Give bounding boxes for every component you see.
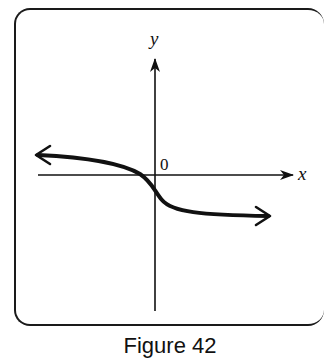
origin-label: 0 xyxy=(160,155,169,175)
function-curve xyxy=(38,155,268,216)
figure-caption: Figure 42 xyxy=(0,333,326,359)
y-axis-label: y xyxy=(150,28,158,50)
x-axis-label: x xyxy=(298,163,306,185)
